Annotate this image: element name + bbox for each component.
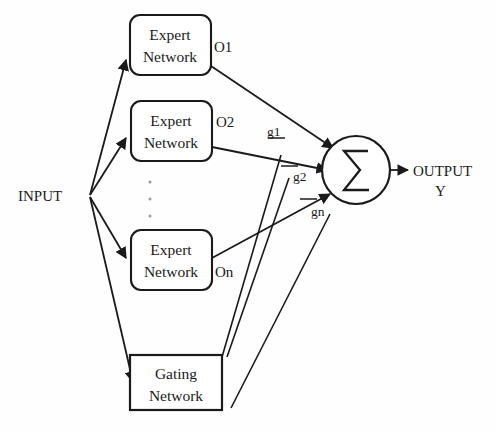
- output-label-line2: Y: [435, 183, 446, 199]
- diagram-canvas: Expert Network Expert Network Expert Net…: [0, 0, 495, 433]
- expert-2-label-line1: Expert: [150, 112, 192, 129]
- expert-1-label-line1: Expert: [149, 26, 191, 43]
- expert-3-label-line1: Expert: [150, 241, 192, 258]
- gating-edges: [222, 155, 330, 408]
- gating-label-line1: Gating: [155, 365, 197, 382]
- ellipsis-dot-2: [149, 198, 152, 201]
- ellipsis-dot-1: [149, 181, 152, 184]
- expert-1-label-line2: Network: [143, 48, 197, 65]
- edge-input-to-expert-3: [90, 197, 126, 258]
- expert-2-label-line2: Network: [144, 134, 198, 151]
- diagram-svg: Expert Network Expert Network Expert Net…: [0, 0, 495, 433]
- gating-label-line2: Network: [149, 387, 203, 404]
- expert-network-box-2[interactable]: [131, 101, 212, 161]
- edge-o2-to-sum: [212, 147, 327, 170]
- expert-output-label-on: On: [215, 264, 234, 280]
- input-label: INPUT: [18, 188, 62, 204]
- output-label-line1: OUTPUT: [413, 163, 472, 179]
- gate-weight-label-gn: gn: [311, 204, 325, 219]
- expert-network-box-3[interactable]: [131, 230, 212, 290]
- gate-weight-label-g1: g1: [267, 124, 281, 139]
- expert-output-label-o1: O1: [214, 39, 232, 55]
- edge-input-to-expert-2: [90, 138, 126, 195]
- expert-3-label-line2: Network: [144, 263, 198, 280]
- edge-input-to-expert-1: [90, 60, 126, 195]
- gate-weight-label-g2: g2: [293, 169, 307, 184]
- expert-network-box-1[interactable]: [130, 15, 211, 75]
- vertical-ellipsis: [149, 181, 152, 218]
- ellipsis-dot-3: [149, 215, 152, 218]
- edge-gating-g2: [227, 178, 289, 357]
- expert-output-label-o2: O2: [216, 114, 234, 130]
- summation-circle[interactable]: [322, 136, 390, 204]
- input-edges: [90, 60, 133, 382]
- edge-gating-gn: [231, 214, 330, 408]
- edge-input-to-gating: [90, 197, 133, 382]
